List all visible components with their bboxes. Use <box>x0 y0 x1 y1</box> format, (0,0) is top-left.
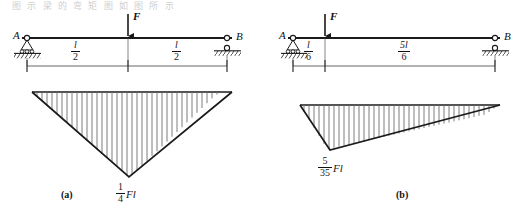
beam-a-dim-right-num: l <box>172 40 181 52</box>
beam-b-peak-den: 35 <box>318 168 332 179</box>
beam-b-moment-diagram <box>300 105 500 150</box>
beam-a-peak-num: 1 <box>116 182 125 194</box>
beam-b-peak-suffix: Fl <box>333 162 343 174</box>
beam-b-dim-left-den: 6 <box>304 52 313 63</box>
beam-a-dimension-line <box>27 38 227 72</box>
beam-b-dimension-line <box>293 38 495 72</box>
beam-b-moment-outline <box>300 105 500 150</box>
beam-a-support-a-label: A <box>13 30 20 41</box>
beam-a-dim-left-num: l <box>71 40 80 52</box>
beam-a-dimension-left: l 2 <box>71 41 80 63</box>
beam-a-dim-right-den: 2 <box>172 52 181 63</box>
subfigure-a-label: (a) <box>61 190 73 200</box>
beam-a-moment-peak-label: 1 4 Fl <box>116 183 136 205</box>
beam-a-support-b-label: B <box>236 31 243 42</box>
beam-b-support-b-label: B <box>504 31 511 42</box>
beam-a-peak-den: 4 <box>116 194 125 205</box>
beam-b-dimension-left: l 6 <box>304 41 313 63</box>
beam-b-moment-peak-label: 5 35 Fl <box>318 157 343 179</box>
subfigure-b-label: (b) <box>396 190 408 200</box>
figure-canvas <box>0 0 525 213</box>
beam-b-dim-right-den: 6 <box>398 52 410 63</box>
beam-moment-figure: 图 示 梁 的 弯 矩 图 如 图 所 示 <box>0 0 525 213</box>
beam-b-group <box>281 14 509 150</box>
beam-b-dim-left-num: l <box>304 40 313 52</box>
beam-b-support-a-label: A <box>279 30 286 41</box>
beam-a-moment-diagram <box>32 92 232 177</box>
beam-b-dimension-right: 5l 6 <box>398 41 410 63</box>
beam-b-load-label: F <box>330 11 337 22</box>
beam-b-dim-right-num: 5l <box>398 40 410 52</box>
beam-a-peak-suffix: Fl <box>126 188 136 200</box>
beam-a-load-label: F <box>133 11 140 22</box>
beam-b-peak-num: 5 <box>318 156 332 168</box>
beam-a-dim-left-den: 2 <box>71 52 80 63</box>
beam-a-moment-hatch <box>37 92 217 176</box>
beam-b-moment-hatch <box>304 105 494 149</box>
beam-a-group <box>14 14 241 177</box>
beam-a-dimension-right: l 2 <box>172 41 181 63</box>
